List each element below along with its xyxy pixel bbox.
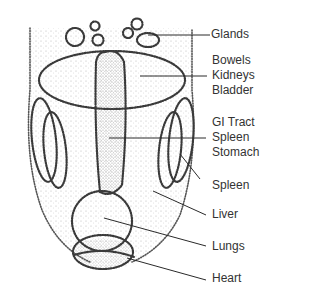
label-lungs: Lungs — [212, 239, 245, 254]
label-line: Bladder — [212, 83, 255, 98]
label-liver: Liver — [212, 207, 238, 222]
label-spleen: Spleen — [212, 178, 249, 193]
label-bowels-kidneys-bladder: Bowels Kidneys Bladder — [212, 53, 255, 98]
leader-heart — [127, 258, 206, 280]
label-line: Bowels — [212, 53, 255, 68]
label-line: Spleen — [212, 130, 259, 145]
label-glands: Glands — [211, 27, 249, 42]
heart-region — [73, 235, 134, 270]
gi-tract-region — [96, 51, 126, 194]
label-line: GI Tract — [212, 115, 259, 130]
label-line: Glands — [211, 27, 249, 42]
label-line: Lungs — [212, 239, 245, 254]
label-line: Heart — [212, 271, 241, 286]
label-line: Stomach — [212, 145, 259, 160]
label-line: Kidneys — [212, 68, 255, 83]
label-line: Spleen — [212, 178, 249, 193]
label-line: Liver — [212, 207, 238, 222]
label-heart: Heart — [212, 271, 241, 286]
label-gi-tract-spleen-stomach: GI Tract Spleen Stomach — [212, 115, 259, 160]
